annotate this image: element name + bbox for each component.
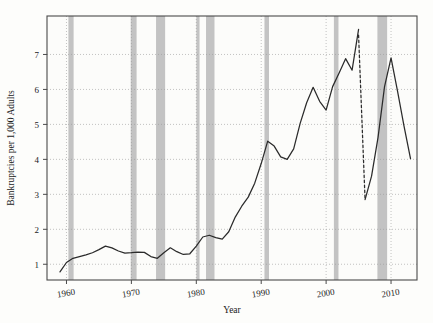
chart-canvas: 1234567 196019701980199020002010 Bankrup… (0, 0, 433, 323)
y-tick-label: 4 (35, 155, 40, 165)
recession-band (206, 16, 214, 280)
recession-band (68, 16, 73, 280)
bankruptcy-rate-chart-figure: 1234567 196019701980199020002010 Bankrup… (0, 0, 433, 323)
recession-band (156, 16, 165, 280)
y-tick-label: 1 (35, 260, 40, 270)
y-axis-title: Bankruptcies per 1,000 Adults (6, 90, 16, 206)
plot-area-background (47, 16, 417, 280)
y-tick-label: 5 (35, 120, 40, 130)
recession-band (334, 16, 339, 280)
y-tick-label: 3 (35, 190, 40, 200)
y-tick-label: 6 (35, 85, 40, 95)
recession-band (196, 16, 199, 280)
x-axis-title: Year (223, 305, 241, 315)
y-tick-label: 2 (35, 225, 40, 235)
y-tick-label: 7 (35, 50, 40, 60)
recession-band (377, 16, 387, 280)
